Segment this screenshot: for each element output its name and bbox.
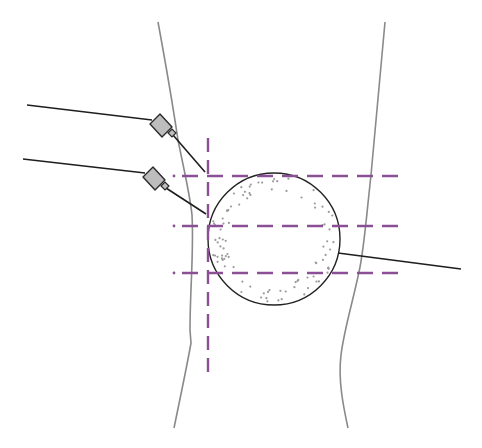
stipple-dot [327, 267, 329, 269]
stipple-dot [315, 280, 317, 282]
stipple-dot [272, 180, 274, 182]
stipple-dot [233, 266, 235, 268]
stipple-dot [225, 255, 227, 257]
stipple-dot [216, 256, 218, 258]
stipple-dot [285, 190, 287, 192]
guide-start-dot [173, 175, 176, 178]
stipple-dot [297, 279, 299, 281]
stipple-dot [324, 223, 326, 225]
stipple-dot [314, 207, 316, 209]
stipple-dot [279, 290, 281, 292]
stipple-dot [326, 272, 328, 274]
stipple-dot [306, 276, 308, 278]
stipple-dot [218, 237, 220, 239]
stipple-dot [303, 293, 305, 295]
stipple-dot [267, 291, 269, 293]
stipple-dot [226, 209, 228, 211]
stipple-dot [328, 228, 330, 230]
stipple-dot [222, 223, 224, 225]
stipple-dot [233, 192, 235, 194]
stipple-dot [223, 258, 225, 260]
stipple-dot [273, 178, 275, 180]
knee-diagram [0, 0, 482, 448]
stipple-dot [228, 222, 230, 224]
stipple-dot [223, 247, 225, 249]
stipple-dot [332, 241, 334, 243]
stipple-dot [221, 255, 223, 257]
stipple-dot [213, 223, 215, 225]
stipple-dot [230, 205, 232, 207]
stipple-dot [329, 248, 331, 250]
stipple-dot [222, 217, 224, 219]
stipple-dot [217, 261, 219, 263]
stipple-dot [313, 189, 315, 191]
stipple-dot [266, 300, 268, 302]
stipple-dot [265, 297, 267, 299]
stipple-dot [249, 186, 251, 188]
stipple-dot [249, 286, 251, 288]
stipple-dot [293, 286, 295, 288]
stipple-dot [241, 281, 243, 283]
stipple-dot [225, 240, 227, 242]
stipple-dot [260, 296, 262, 298]
stipple-dot [246, 197, 248, 199]
stipple-dot [331, 214, 333, 216]
stipple-dot [212, 220, 214, 222]
stipple-dot [222, 238, 224, 240]
stipple-dot [300, 196, 302, 198]
stipple-dot [219, 245, 221, 247]
stipple-dot [214, 239, 216, 241]
stipple-dot [268, 289, 270, 291]
stipple-dot [238, 204, 240, 206]
stipple-dot [325, 254, 327, 256]
stipple-dot [240, 186, 242, 188]
stipple-dot [248, 192, 250, 194]
stipple-dot [271, 188, 273, 190]
stipple-dot [212, 254, 214, 256]
stipple-dot [318, 280, 320, 282]
stipple-dot [242, 194, 244, 196]
stipple-dot [220, 228, 222, 230]
stipple-dot [277, 299, 279, 301]
stipple-dot [322, 259, 324, 261]
stipple-dot [326, 240, 328, 242]
stipple-dot [314, 202, 316, 204]
guide-start-dot [173, 225, 176, 228]
stipple-dot [257, 181, 259, 183]
guide-start-dot [173, 272, 176, 275]
stipple-dot [321, 206, 323, 208]
stipple-dot [287, 178, 289, 180]
stipple-dot [224, 265, 226, 267]
stipple-dot [228, 256, 230, 258]
stipple-dot [263, 292, 265, 294]
stipple-dot [281, 298, 283, 300]
stipple-dot [240, 291, 242, 293]
stipple-dot [226, 253, 228, 255]
stipple-dot [250, 183, 252, 185]
stipple-dot [244, 191, 246, 193]
stipple-dot [276, 180, 278, 182]
stipple-dot [217, 241, 219, 243]
stipple-dot [307, 287, 309, 289]
stipple-dot [261, 182, 263, 184]
background [0, 0, 482, 448]
stipple-dot [285, 290, 287, 292]
stipple-dot [313, 275, 315, 277]
stipple-dot [322, 246, 324, 248]
stipple-dot [295, 281, 297, 283]
stipple-dot [328, 211, 330, 213]
stipple-dot [315, 262, 317, 264]
